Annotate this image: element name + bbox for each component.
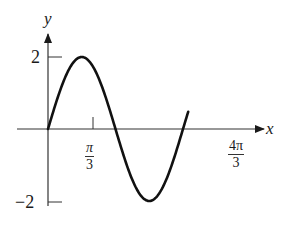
fraction-denominator: 3 — [86, 157, 93, 172]
x-axis-label: x — [266, 120, 274, 137]
y-axis-label: y — [44, 10, 52, 27]
sine-graph — [0, 0, 283, 228]
y-tick-label-minus-2: −2 — [15, 193, 34, 211]
y-tick-label-2: 2 — [31, 48, 40, 66]
x-tick-label-pi-over-3: π 3 — [85, 141, 94, 172]
fraction-numerator: π — [85, 141, 94, 157]
x-tick-label-4pi-over-3: 4π 3 — [228, 139, 244, 170]
numerator-text: 4π — [229, 138, 243, 153]
fraction-numerator: 4π — [228, 139, 244, 155]
fraction-denominator: 3 — [233, 155, 240, 170]
